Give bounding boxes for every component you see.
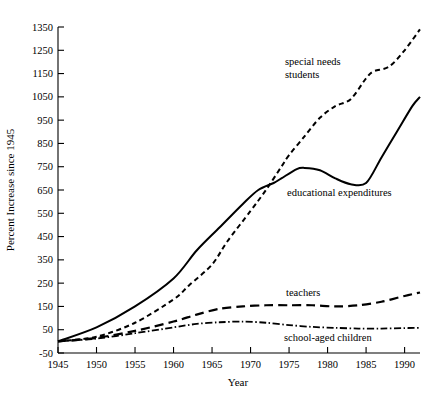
x-axis-title: Year [228,376,249,388]
y-tick-label: 550 [37,208,53,219]
y-tick-label: 50 [43,324,54,335]
y-tick-label: 850 [37,138,53,149]
x-tick-label: 1980 [317,359,338,370]
x-tick-label: 1970 [240,359,261,370]
series-layer [58,29,420,341]
x-tick-label: 1975 [279,359,300,370]
y-tick-label: 1050 [32,91,53,102]
x-axis-tick-labels: 1945195019551960196519701975198019851990 [48,359,416,370]
line-chart: -505015025035045055065075085095010501150… [0,0,438,406]
chart-container: -505015025035045055065075085095010501150… [0,0,438,406]
y-axis-title: Percent Increase since 1945 [4,128,16,251]
x-tick-label: 1955 [125,359,146,370]
x-tick-label: 1990 [394,359,415,370]
x-tick-label: 1965 [202,359,223,370]
y-tick-label: 350 [37,254,53,265]
y-tick-label: 650 [37,185,53,196]
y-tick-label: 750 [37,161,53,172]
annotation-special-needs-line1: special needs [285,56,341,67]
annotation-special-needs-line2: students [285,69,319,80]
y-tick-label: 950 [37,115,53,126]
y-tick-label: 1250 [32,45,53,56]
y-tick-label: 250 [37,278,53,289]
x-tick-label: 1950 [86,359,107,370]
x-tick-label: 1945 [48,359,69,370]
x-tick-label: 1960 [163,359,184,370]
annotation-teachers: teachers [286,287,320,298]
y-tick-label: 150 [37,301,53,312]
annotation-educational-expenditures: educational expenditures [287,187,392,198]
y-tick-label: 450 [37,231,53,242]
x-axis-ticks [58,347,405,353]
y-tick-label: 1350 [32,22,53,33]
x-tick-label: 1985 [356,359,377,370]
y-axis: -505015025035045055065075085095010501150… [32,22,64,359]
series-line-special-needs-students [58,29,420,341]
x-axis: 1945195019551960196519701975198019851990 [48,347,421,370]
y-tick-label: -50 [39,348,53,359]
y-axis-tick-labels: -505015025035045055065075085095010501150… [32,22,53,359]
y-axis-ticks [58,27,64,353]
y-tick-label: 1150 [32,68,53,79]
annotation-school-aged-children: school-aged children [284,332,373,343]
